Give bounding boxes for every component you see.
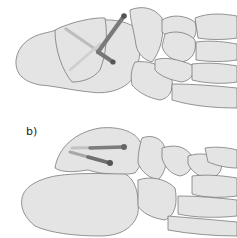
panel-a-foot-crossed-screws — [0, 0, 237, 118]
foot-bones-illustration-a — [0, 0, 237, 118]
screw-upper-dark — [90, 147, 124, 148]
foot-bones-illustration-b — [0, 118, 237, 238]
panel-b-foot-parallel-screws: b) — [0, 118, 237, 238]
